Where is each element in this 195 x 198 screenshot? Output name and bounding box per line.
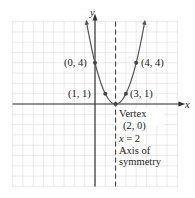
- data-point: [124, 92, 128, 96]
- curve-arrow-icon: [85, 20, 89, 25]
- data-point: [93, 61, 97, 65]
- data-point: [114, 102, 118, 106]
- y-axis-label: y: [89, 7, 95, 18]
- vertex-title: Vertex: [119, 108, 147, 119]
- aos-label-line1: Axis of: [119, 145, 151, 156]
- x-axis-label: x: [184, 99, 190, 110]
- point-label-0-4: (0, 4): [64, 57, 87, 69]
- point-label-4-4: (4, 4): [141, 57, 164, 69]
- aos-label-line2: symmetry: [119, 156, 162, 167]
- curve-arrow-icon: [142, 20, 146, 25]
- data-point: [103, 92, 107, 96]
- aos-equation: x = 2: [118, 133, 140, 144]
- parabola-graph: y x (0, 4) (4, 4) (1, 1) (3, 1) Vertex (…: [0, 0, 195, 198]
- point-label-3-1: (3, 1): [130, 88, 153, 100]
- vertex-coords: (2, 0): [123, 120, 146, 132]
- point-label-1-1: (1, 1): [68, 88, 91, 100]
- data-point: [134, 61, 138, 65]
